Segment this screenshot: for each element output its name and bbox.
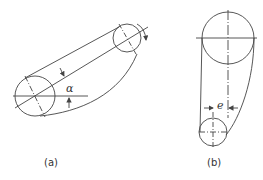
belt-upper-a — [25, 27, 119, 78]
caption-a: (a) — [44, 157, 58, 168]
belt-left-b — [200, 38, 202, 132]
belt-drive-diagram — [0, 0, 263, 180]
angle-arrow-upper — [60, 68, 64, 76]
perp-axis-large-a — [25, 76, 45, 117]
angle-label-alpha: α — [66, 82, 73, 95]
offset-label-e: e — [217, 99, 224, 112]
figure-b — [196, 10, 257, 148]
perp-axis-small-a — [119, 24, 136, 54]
caption-b: (b) — [207, 157, 221, 168]
figure-a — [13, 24, 148, 117]
rotation-arrow-icon — [137, 24, 146, 40]
